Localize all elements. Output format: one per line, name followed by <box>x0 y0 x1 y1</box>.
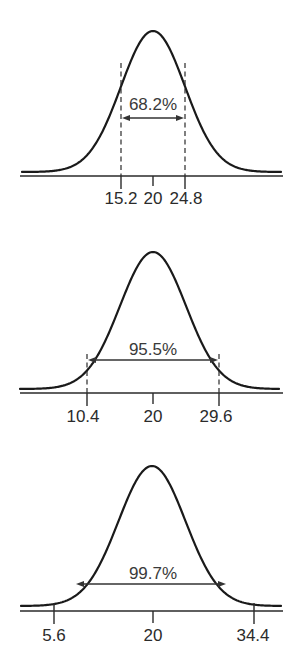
arrow-head-left-icon <box>88 357 96 363</box>
normal-distribution-figure: 68.2% 15.2 20 24.8 95.5% 10.4 20 29.6 99… <box>0 0 303 672</box>
arrow-head-right-icon <box>210 357 218 363</box>
normal-curve <box>20 252 279 389</box>
tick-label-mean: 20 <box>144 407 163 426</box>
tick-label-mean: 20 <box>144 189 163 208</box>
arrow-head-right-icon <box>176 115 184 121</box>
arrow-head-left-icon <box>122 115 130 121</box>
tick-label-upper: 34.4 <box>236 626 269 645</box>
panel-2sd: 95.5% 10.4 20 29.6 <box>20 252 283 426</box>
arrow-head-right-icon <box>218 581 226 587</box>
percent-label: 68.2% <box>129 95 177 114</box>
tick-label-upper: 24.8 <box>169 189 202 208</box>
arrow-head-left-icon <box>76 581 84 587</box>
panel-1sd: 68.2% 15.2 20 24.8 <box>20 31 283 208</box>
tick-label-upper: 29.6 <box>199 407 232 426</box>
tick-label-lower: 5.6 <box>42 626 66 645</box>
tick-label-lower: 15.2 <box>104 189 137 208</box>
normal-curve <box>21 466 281 606</box>
percent-label: 99.7% <box>129 564 177 583</box>
panel-3sd: 99.7% 5.6 20 34.4 <box>20 466 283 645</box>
tick-label-lower: 10.4 <box>66 407 99 426</box>
figure-canvas: 68.2% 15.2 20 24.8 95.5% 10.4 20 29.6 99… <box>0 0 303 672</box>
tick-label-mean: 20 <box>144 626 163 645</box>
percent-label: 95.5% <box>129 340 177 359</box>
